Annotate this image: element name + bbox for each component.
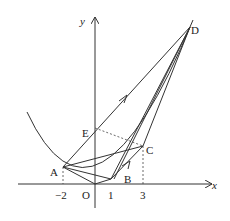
point-label-D: D (191, 24, 199, 36)
parabola-vector-diagram: A B C D E x y O −2 1 3 (0, 0, 230, 221)
point-label-A: A (50, 166, 58, 178)
x-tick-1: 1 (108, 189, 114, 201)
segment-B-D-2 (114, 27, 190, 179)
x-tick-3: 3 (140, 189, 146, 201)
x-tick-neg2: −2 (55, 189, 67, 201)
segment-A-B (63, 167, 111, 179)
x-axis-label: x (211, 179, 217, 191)
point-label-B: B (124, 173, 131, 185)
vector-arrow-BC-icon (122, 161, 130, 169)
parabola-curve (27, 20, 193, 168)
point-label-E: E (82, 127, 89, 139)
segment-A-O (63, 167, 95, 184)
segment-C-D (143, 27, 190, 146)
origin-label: O (82, 189, 90, 201)
segment-A-C (63, 146, 143, 167)
y-axis-label: y (79, 15, 85, 27)
segment-O-B (95, 179, 111, 184)
vector-arrow-AD-icon (119, 95, 127, 103)
point-label-C: C (146, 144, 153, 156)
